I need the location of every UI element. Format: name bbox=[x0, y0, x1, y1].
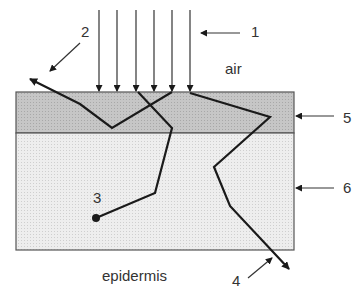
label-epidermis: epidermis bbox=[102, 268, 167, 283]
label-6: 6 bbox=[343, 180, 351, 195]
incident-light-arrows bbox=[99, 10, 190, 91]
pointer-2 bbox=[50, 43, 80, 71]
label-air: air bbox=[225, 61, 242, 76]
skin-light-diagram bbox=[0, 0, 364, 299]
label-4: 4 bbox=[232, 273, 240, 288]
label-1: 1 bbox=[251, 24, 259, 39]
label-5: 5 bbox=[343, 110, 351, 125]
absorption-point bbox=[92, 214, 100, 222]
label-2: 2 bbox=[81, 24, 89, 39]
label-3: 3 bbox=[93, 190, 101, 205]
pointer-4 bbox=[248, 258, 272, 278]
